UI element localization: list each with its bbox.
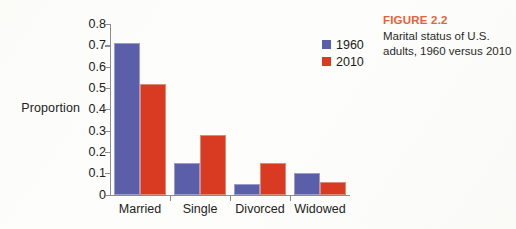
bar-divorced-1960 [234, 184, 260, 195]
y-axis-tick-label: 0.8 [89, 17, 106, 31]
legend-swatch-1960 [322, 40, 331, 49]
legend-label-2010: 2010 [336, 55, 364, 69]
x-axis-tick-mark [290, 196, 291, 201]
x-axis-category-labels: MarriedSingleDivorcedWidowed [110, 202, 350, 220]
y-axis-tick-mark [105, 109, 110, 110]
y-axis-tick-mark [105, 173, 110, 174]
bar-married-2010 [140, 84, 166, 195]
y-axis-tick-label: 0.4 [89, 102, 106, 116]
x-axis-label-divorced: Divorced [235, 202, 284, 216]
figure-description: Marital status of U.S. adults, 1960 vers… [383, 29, 513, 58]
legend-item-1960: 1960 [322, 36, 364, 53]
y-axis-tick-mark [105, 45, 110, 46]
legend-label-1960: 1960 [336, 38, 364, 52]
chart-plot-area: Proportion 00.10.20.30.40.50.60.70.8 Mar… [0, 0, 380, 229]
bar-widowed-2010 [320, 182, 346, 195]
y-axis-title: Proportion [8, 101, 80, 115]
y-axis-tick-label: 0.6 [89, 60, 106, 74]
y-axis-tick-mark [105, 131, 110, 132]
bar-married-1960 [114, 43, 140, 194]
y-axis-tick-mark [105, 24, 110, 25]
figure-caption: FIGURE 2.2 Marital status of U.S. adults… [383, 13, 513, 58]
figure-number: FIGURE 2.2 [383, 13, 513, 27]
y-axis-tick-label: 0.5 [89, 81, 106, 95]
y-axis-tick-mark [105, 195, 110, 196]
y-axis-tick-labels: 00.10.20.30.40.50.60.70.8 [76, 17, 106, 203]
x-axis-tick-mark [170, 196, 171, 201]
bar-single-1960 [174, 163, 200, 195]
bar-divorced-2010 [260, 163, 286, 195]
chart-legend: 19602010 [322, 36, 364, 70]
bar-single-2010 [200, 135, 226, 195]
figure-container: Proportion 00.10.20.30.40.50.60.70.8 Mar… [0, 0, 516, 229]
x-axis-label-widowed: Widowed [294, 202, 345, 216]
y-axis-tick-mark [105, 152, 110, 153]
chart-axes [110, 24, 350, 196]
y-axis-tick-mark [105, 67, 110, 68]
y-axis-line [110, 24, 111, 196]
y-axis-tick-label: 0.1 [89, 166, 106, 180]
legend-swatch-2010 [322, 57, 331, 66]
x-axis-label-single: Single [183, 202, 218, 216]
bar-widowed-1960 [294, 173, 320, 194]
y-axis-tick-label: 0.2 [89, 145, 106, 159]
y-axis-tick-label: 0.3 [89, 124, 106, 138]
y-axis-tick-label: 0.7 [89, 38, 106, 52]
y-axis-tick-mark [105, 88, 110, 89]
x-axis-label-married: Married [119, 202, 161, 216]
legend-item-2010: 2010 [322, 53, 364, 70]
x-axis-tick-mark [230, 196, 231, 201]
